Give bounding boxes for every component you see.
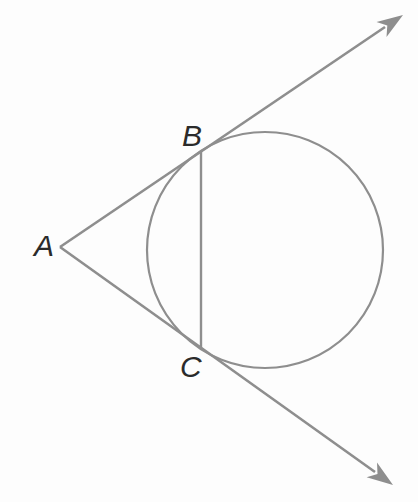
label-point-C: C <box>180 350 202 383</box>
tangent-ray-AB <box>60 27 385 247</box>
label-point-B: B <box>182 119 202 152</box>
figure-canvas: A B C <box>0 0 418 502</box>
arrowhead-upper-icon <box>377 15 404 37</box>
label-point-A: A <box>32 229 54 262</box>
arrowhead-lower-icon <box>367 463 393 485</box>
geometry-figure: A B C <box>0 0 418 502</box>
circle <box>147 132 383 368</box>
tangent-ray-AC <box>60 247 375 472</box>
